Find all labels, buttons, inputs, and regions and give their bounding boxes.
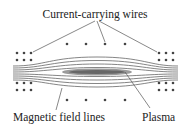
field-lines-label: Magnetic field lines xyxy=(13,111,105,124)
plasma-region xyxy=(62,68,132,75)
plasma-pinch-diagram: Current-carrying wires Magnetic field li… xyxy=(0,0,189,126)
leader-lines xyxy=(33,21,157,110)
plasma-label: Plasma xyxy=(142,111,175,123)
wires-label: Current-carrying wires xyxy=(42,8,148,21)
